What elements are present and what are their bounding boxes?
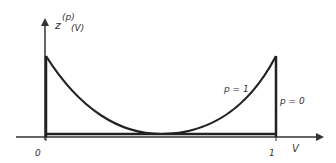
x-tick-0: 0	[35, 148, 41, 158]
x-axis-label: V	[292, 143, 300, 154]
p1-label: p = 1	[223, 84, 249, 94]
p1-curve	[46, 56, 276, 134]
y-axis-superscript: (p)	[62, 12, 75, 22]
x-tick-1: 1	[269, 148, 275, 158]
p0-label: p = 0	[279, 96, 305, 106]
y-axis-label: z	[54, 19, 61, 32]
y-axis-subscript: (V)	[71, 23, 84, 33]
diagram: z (p) (V) V 0 1 p = 1 p = 0	[0, 0, 336, 163]
